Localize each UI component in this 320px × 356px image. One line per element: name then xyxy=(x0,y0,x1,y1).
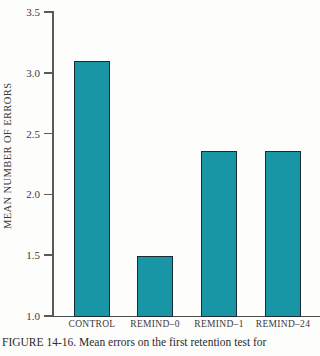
bar-remind-1 xyxy=(201,151,237,317)
y-axis-line xyxy=(52,11,54,316)
y-tick-label: 1.0 xyxy=(14,309,40,323)
y-tick xyxy=(44,315,53,317)
y-tick xyxy=(44,254,53,256)
y-tick-label: 3.0 xyxy=(14,66,40,80)
y-tick-label: 2.0 xyxy=(14,187,40,201)
bar-remind-0 xyxy=(137,256,173,317)
figure-chart: MEAN NUMBER OF ERRORS FIGURE 14-16. Mean… xyxy=(0,0,320,356)
y-axis-title: MEAN NUMBER OF ERRORS xyxy=(2,72,18,240)
y-tick-label: 3.5 xyxy=(14,5,40,19)
y-tick-label: 2.5 xyxy=(14,127,40,141)
bar-remind-24 xyxy=(265,151,301,317)
y-tick xyxy=(44,133,53,135)
y-tick xyxy=(44,11,53,13)
bar-control xyxy=(74,61,110,317)
y-tick xyxy=(44,194,53,196)
y-tick xyxy=(44,72,53,74)
x-category-label: REMIND–24 xyxy=(243,319,320,329)
figure-caption: FIGURE 14-16. Mean errors on the first r… xyxy=(2,336,320,348)
y-tick-label: 1.5 xyxy=(14,248,40,262)
